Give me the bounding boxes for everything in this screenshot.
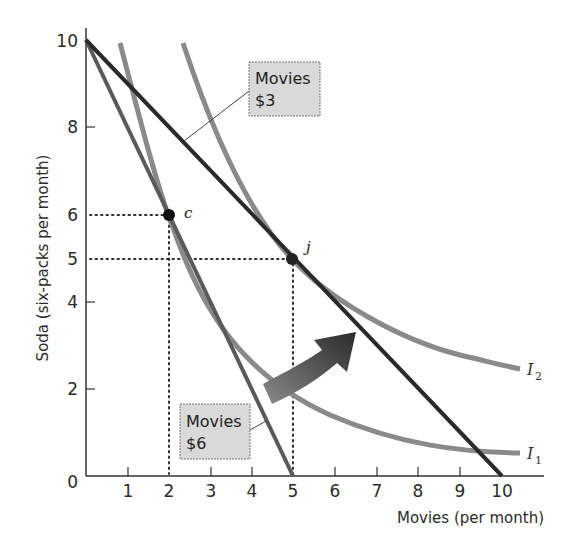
- y-tick-6: 6: [67, 205, 78, 225]
- y-tick-4: 4: [67, 292, 78, 312]
- box-movies-3-line2: $3: [255, 91, 275, 110]
- box-movies-3-line1: Movies: [255, 69, 311, 88]
- svg-text:2: 2: [535, 370, 542, 383]
- x-axis-title: Movies (per month): [397, 509, 544, 527]
- x-tick-3: 3: [206, 481, 217, 501]
- svg-text:I: I: [526, 444, 534, 463]
- x-tick-10: 10: [491, 481, 513, 501]
- x-tick-8: 8: [413, 481, 424, 501]
- box-movies-6: Movies $6: [180, 404, 250, 459]
- label-i1: I 1: [526, 444, 542, 467]
- y-tick-5: 5: [67, 249, 78, 269]
- point-j: [286, 253, 298, 265]
- point-c: [163, 209, 175, 221]
- x-tick-9: 9: [455, 481, 466, 501]
- budget-indifference-chart: 10 8 6 5 4 2 0 1 2 3 4 5 6 7 8 9 10 Soda…: [0, 0, 574, 548]
- y-tick-10: 10: [56, 31, 78, 51]
- x-tick-2: 2: [164, 481, 175, 501]
- label-i2: I 2: [526, 360, 542, 383]
- leader-movies-6: [250, 421, 266, 430]
- svg-text:1: 1: [535, 454, 542, 467]
- shift-arrow-icon: [263, 332, 356, 404]
- point-c-label: c: [184, 204, 193, 222]
- point-j-label: j: [303, 238, 311, 256]
- x-tick-7: 7: [372, 481, 383, 501]
- y-tick-0: 0: [67, 472, 78, 492]
- box-movies-6-line1: Movies: [186, 412, 242, 431]
- svg-text:I: I: [526, 360, 534, 379]
- x-tick-5: 5: [288, 481, 299, 501]
- y-tick-2: 2: [67, 379, 78, 399]
- x-tick-6: 6: [330, 481, 341, 501]
- x-tick-1: 1: [123, 481, 134, 501]
- y-axis-title: Soda (six-packs per month): [34, 155, 52, 362]
- box-movies-6-line2: $6: [186, 434, 206, 453]
- box-movies-3: Movies $3: [249, 62, 320, 116]
- x-tick-labels: 1 2 3 4 5 6 7 8 9 10: [123, 481, 513, 501]
- y-tick-8: 8: [67, 117, 78, 137]
- x-tick-4: 4: [247, 481, 258, 501]
